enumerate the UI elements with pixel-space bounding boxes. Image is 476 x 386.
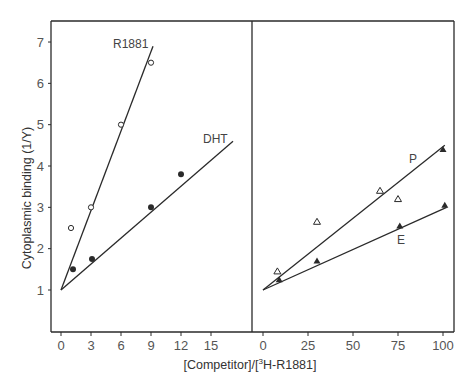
x-tick-label: 9 [147,338,154,353]
y-tick-label: 3 [37,200,44,215]
chart-figure: 1234567036912150255075100 R1881 DHT P E … [0,0,476,386]
fit-lines [61,46,447,290]
data-point-dht [178,171,184,177]
x-tick-label: 15 [204,338,218,353]
x-tick-label: 100 [432,338,454,353]
data-points [68,60,448,282]
data-point-r1881 [118,122,123,127]
fit-line-e [263,207,447,290]
x-tick-label: 75 [391,338,405,353]
data-point-r1881 [88,205,93,210]
y-tick-label: 5 [37,117,44,132]
data-point-p [314,218,321,224]
data-point-dht [148,204,154,210]
y-tick-label: 4 [37,159,44,174]
data-point-dht [89,256,95,262]
x-tick-label: 12 [174,338,188,353]
fit-line-r1881 [61,46,153,290]
x-tick-label: 50 [346,338,360,353]
data-point-e [314,258,321,264]
data-point-dht [70,266,76,272]
series-label-e: E [397,233,405,247]
y-tick-label: 1 [37,283,44,298]
data-point-p [377,187,384,193]
data-point-e [396,222,403,228]
x-axis-title: [Competitor]/[3H-R1881] [184,357,317,372]
series-label-r1881: R1881 [113,37,149,51]
series-label-p: P [409,152,417,166]
y-tick-label: 6 [37,76,44,91]
x-tick-label: 25 [301,338,315,353]
plot-frame [51,21,454,332]
data-point-p [274,268,281,274]
data-point-p [395,196,402,202]
axis-ticks: 1234567036912150255075100 [37,35,454,353]
y-tick-label: 7 [37,35,44,50]
x-axis-title-suffix: H-R1881] [263,358,317,372]
y-tick-label: 2 [37,241,44,256]
y-axis-title: Cytoplasmic binding (1/Y) [20,127,34,269]
x-axis-title-prefix: [Competitor]/[ [184,358,260,372]
x-tick-label: 0 [259,338,266,353]
fit-line-p [263,145,445,290]
series-label-dht: DHT [203,132,228,146]
data-point-r1881 [148,60,153,65]
x-tick-label: 6 [117,338,124,353]
x-tick-label: 3 [87,338,94,353]
data-point-r1881 [68,225,73,230]
data-point-e [441,202,448,208]
fit-line-dht [61,141,233,290]
x-tick-label: 0 [57,338,64,353]
